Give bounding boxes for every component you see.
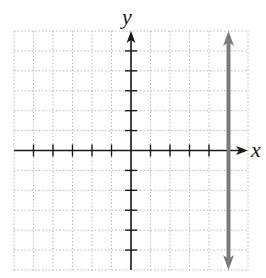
axes (14, 31, 248, 270)
x-axis-label: x (250, 137, 261, 162)
coordinate-plane: y x (0, 0, 266, 278)
y-axis-label: y (120, 4, 132, 29)
